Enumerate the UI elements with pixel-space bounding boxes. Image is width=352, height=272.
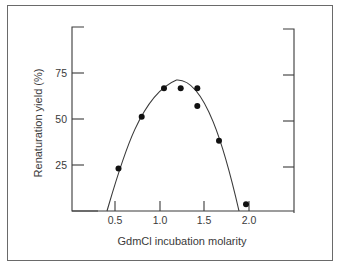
- data-point: [216, 138, 222, 144]
- y-axis-left: [72, 27, 98, 211]
- x-tick-label: 1.5: [197, 214, 212, 226]
- y-axis-label: Renaturation yield (%): [32, 69, 44, 178]
- data-point: [194, 85, 200, 91]
- data-point: [194, 103, 200, 109]
- x-axis: [72, 201, 294, 211]
- fit-curve: [107, 80, 239, 211]
- y-axis-right: [283, 29, 294, 213]
- data-point: [139, 114, 145, 120]
- data-point: [178, 85, 184, 91]
- x-tick-label: 2.0: [242, 214, 257, 226]
- x-axis-label: GdmCl incubation molarity: [118, 235, 247, 247]
- data-point: [243, 201, 249, 207]
- y-tick-label: 75: [55, 67, 67, 79]
- x-tick-label: 0.5: [108, 214, 123, 226]
- chart-plot: 75 50 25 0.5 1.0 1.5 2.0: [0, 0, 352, 272]
- data-point: [116, 166, 122, 172]
- x-tick-label: 1.0: [153, 214, 168, 226]
- data-point: [161, 85, 167, 91]
- y-tick-label: 50: [55, 113, 67, 125]
- y-tick-label: 25: [55, 159, 67, 171]
- data-points: [116, 85, 250, 207]
